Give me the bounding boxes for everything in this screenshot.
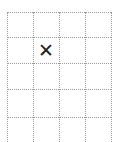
board-cell[interactable]: [7, 12, 33, 37]
board-cell[interactable]: [33, 118, 59, 142]
grid-line-v: [111, 12, 112, 142]
board-cell[interactable]: ✕: [33, 38, 59, 63]
board-cell[interactable]: [85, 12, 111, 37]
board-cell[interactable]: [7, 38, 33, 63]
board-cell[interactable]: [33, 90, 59, 115]
board-cell[interactable]: [7, 64, 33, 89]
board-cell[interactable]: [59, 38, 85, 63]
board-cell[interactable]: [59, 64, 85, 89]
board-cell[interactable]: [33, 64, 59, 89]
board-cell[interactable]: [85, 38, 111, 63]
board-cell[interactable]: [7, 118, 33, 142]
x-mark-icon: ✕: [38, 41, 54, 60]
board-cell[interactable]: [85, 118, 111, 142]
board-cell[interactable]: [85, 90, 111, 115]
board-cell[interactable]: [7, 90, 33, 115]
board-cell[interactable]: [85, 64, 111, 89]
board-cell[interactable]: [33, 12, 59, 37]
game-board: ✕: [7, 12, 111, 142]
board-cell[interactable]: [59, 118, 85, 142]
board-cell[interactable]: [59, 90, 85, 115]
board-cell[interactable]: [59, 12, 85, 37]
